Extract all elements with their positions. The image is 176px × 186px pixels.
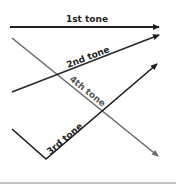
tone-4-label: 4th tone <box>68 74 108 109</box>
tone-3-arrow <box>12 64 157 159</box>
tone-diagram: 4th tone 1st tone 2nd tone 3rd tone <box>0 0 176 186</box>
tone-1-label: 1st tone <box>66 14 108 24</box>
tone-3-label: 3rd tone <box>45 121 85 156</box>
